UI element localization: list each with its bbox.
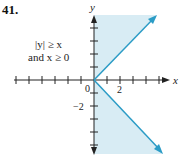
- x-tick-label-2: 2: [117, 84, 122, 95]
- y-tick-label-neg2: −2: [73, 101, 84, 112]
- x-axis-arrow-icon: [162, 77, 170, 83]
- x-axis-label: x: [172, 74, 178, 86]
- y-axis-label: y: [89, 1, 95, 13]
- y-axis: y −2: [73, 1, 98, 155]
- origin-label: 0: [85, 83, 90, 94]
- inequality-graph: x 0 2 y −2: [0, 0, 189, 156]
